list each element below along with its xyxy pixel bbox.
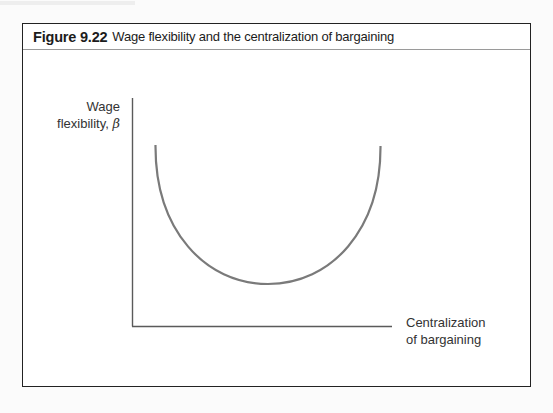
x-axis-label-line-2: of bargaining bbox=[406, 331, 486, 348]
y-axis-label-text: flexibility, bbox=[57, 116, 112, 131]
beta-symbol: β bbox=[112, 116, 120, 131]
x-axis-label: Centralization of bargaining bbox=[406, 314, 486, 348]
chart-plot bbox=[0, 0, 553, 413]
y-axis-label: Wage flexibility, β bbox=[54, 98, 120, 132]
y-axis-label-line-1: Wage bbox=[54, 98, 120, 115]
x-axis-label-line-1: Centralization bbox=[406, 314, 486, 331]
u-shaped-curve bbox=[155, 145, 380, 284]
y-axis-label-line-2: flexibility, β bbox=[54, 115, 120, 132]
